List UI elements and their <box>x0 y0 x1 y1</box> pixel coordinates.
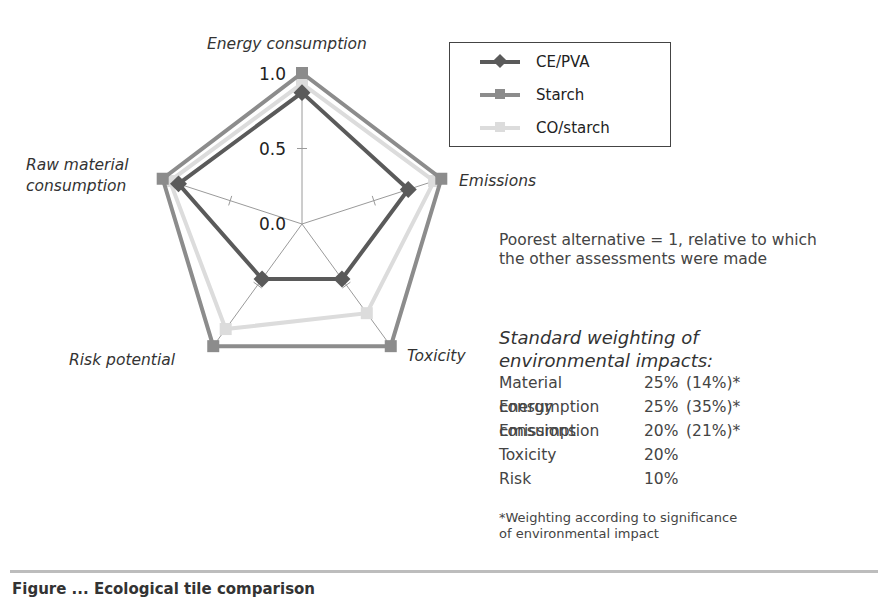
weighting-value: 25% <box>644 395 686 419</box>
weighting-row: Toxicity 20% <box>499 443 740 467</box>
weighting-value: 10% <box>644 467 686 491</box>
weighting-value: 20% <box>644 443 686 467</box>
legend-label: CE/PVA <box>536 53 590 71</box>
tick-label-0-0: 0.0 <box>259 214 286 234</box>
weighting-name: Emissions <box>499 419 644 443</box>
weighting-name: Material consumption <box>499 371 644 395</box>
square-marker-icon <box>480 115 520 141</box>
figure-caption: Figure ... Ecological tile comparison <box>12 580 315 598</box>
tick-label-1-0: 1.0 <box>259 64 286 84</box>
weighting-title-line1: Standard weighting of <box>499 326 713 349</box>
weighting-row: Risk 10% <box>499 467 740 491</box>
weighting-alt-value: (35%)* <box>686 395 740 419</box>
legend-label: Starch <box>536 86 584 104</box>
legend-item-starch[interactable]: Starch <box>480 82 584 108</box>
weighting-footnote: *Weighting according to significance of … <box>499 510 737 542</box>
footnote-line2: of environmental impact <box>499 526 737 542</box>
series-line-ce-pva <box>178 93 408 279</box>
square-marker-icon <box>157 173 169 185</box>
square-marker-icon <box>435 173 447 185</box>
weighting-row: Energy consumption 25% (35%)* <box>499 395 740 419</box>
weighting-alt-value: (21%)* <box>686 419 740 443</box>
weighting-name: Energy consumption <box>499 395 644 419</box>
square-marker-icon <box>207 340 219 352</box>
weighting-row: Material consumption 25% (14%)* <box>499 371 740 395</box>
weighting-name: Risk <box>499 467 644 491</box>
weighting-row: Emissions 20% (21%)* <box>499 419 740 443</box>
caption-divider <box>10 570 878 573</box>
weighting-value: 20% <box>644 419 686 443</box>
square-marker-icon <box>385 340 397 352</box>
axis-label-toxicity: Toxicity <box>407 346 466 367</box>
diamond-marker-icon <box>480 49 520 75</box>
axis-label-raw-line2: consumption <box>26 176 129 197</box>
chart-legend: CE/PVA Starch CO/starch <box>449 42 671 147</box>
weighting-alt-value: (14%)* <box>686 371 740 395</box>
weighting-table: Material consumption 25% (14%)* Energy c… <box>499 371 740 491</box>
tick-label-0-5: 0.5 <box>259 139 286 159</box>
weighting-title-line2: environmental impacts: <box>499 349 713 372</box>
weighting-value: 25% <box>644 371 686 395</box>
square-marker-icon <box>361 307 373 319</box>
legend-label: CO/starch <box>536 119 610 137</box>
axis-label-raw-line1: Raw material <box>26 155 129 176</box>
axis-label-energy: Energy consumption <box>207 34 367 55</box>
scale-note: Poorest alternative = 1, relative to whi… <box>499 231 829 269</box>
weighting-name: Toxicity <box>499 443 644 467</box>
footnote-line1: *Weighting according to significance <box>499 510 737 526</box>
square-marker-icon <box>220 323 232 335</box>
legend-item-co-starch[interactable]: CO/starch <box>480 115 610 141</box>
axis-label-raw-material: Raw material consumption <box>26 155 129 197</box>
weighting-title: Standard weighting of environmental impa… <box>499 326 713 372</box>
axis-label-emissions: Emissions <box>459 171 536 192</box>
legend-item-ce-pva[interactable]: CE/PVA <box>480 49 590 75</box>
axis-label-risk: Risk potential <box>69 350 175 371</box>
square-marker-icon <box>480 82 520 108</box>
square-marker-icon <box>296 67 308 79</box>
